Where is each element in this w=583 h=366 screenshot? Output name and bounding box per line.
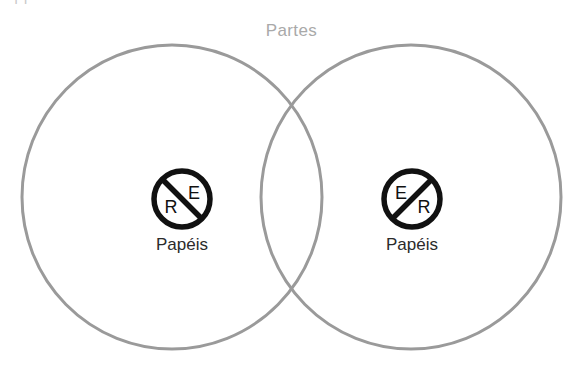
diagram-canvas: | | Partes E R Papéis E R Papéis	[0, 0, 583, 366]
icon-letter-top-left-set: E	[188, 183, 200, 203]
venn-set-left: E R Papéis	[117, 166, 247, 255]
venn-set-right: E R Papéis	[347, 166, 477, 255]
icon-letter-bottom-left-set: R	[165, 197, 178, 217]
no-entry-er-icon-left: E R	[149, 166, 215, 232]
venn-set-left-label: Papéis	[117, 234, 247, 255]
icon-letter-top-right-set: E	[395, 183, 407, 203]
no-entry-er-icon-right: E R	[379, 166, 445, 232]
icon-letter-bottom-right-set: R	[418, 197, 431, 217]
venn-circles-layer	[0, 0, 583, 366]
venn-set-right-label: Papéis	[347, 234, 477, 255]
